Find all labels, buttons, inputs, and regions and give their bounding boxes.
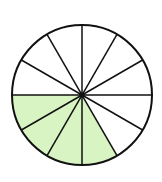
divider-line: [47, 34, 82, 95]
divider-line: [82, 60, 143, 95]
divider-line: [82, 34, 117, 95]
fraction-circle-diagram: [0, 0, 162, 182]
center-dot: [80, 93, 85, 98]
divider-line: [21, 60, 82, 95]
